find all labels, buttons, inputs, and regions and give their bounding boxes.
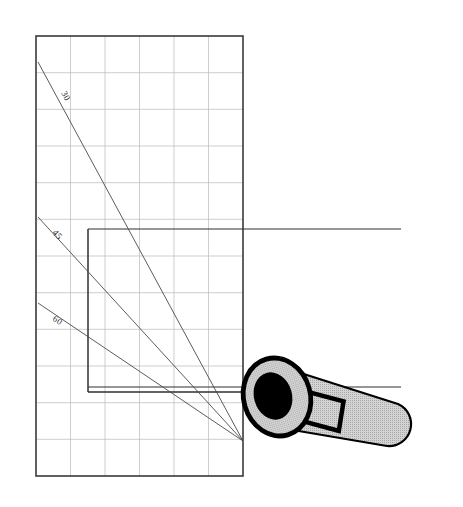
technical-drawing-svg: 30 45 60 [0,0,463,507]
ratchet-wrench [232,348,411,446]
figure-canvas: 30 45 60 [0,0,463,507]
main-grid-panel [36,36,243,476]
